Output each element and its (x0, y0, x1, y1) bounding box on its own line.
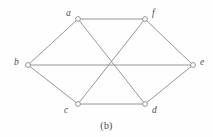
edge-layer (28, 19, 193, 104)
figure-caption: (b) (0, 120, 213, 131)
vertex-b (26, 63, 31, 68)
edge-b-c (28, 65, 78, 104)
vertex-label-c: c (64, 106, 68, 116)
vertex-label-b: b (14, 58, 19, 68)
vertex-label-d: d (152, 106, 157, 116)
vertex-label-e: e (200, 58, 204, 68)
edge-b-a (28, 19, 78, 65)
vertex-layer (26, 17, 196, 107)
graph-drawing (0, 0, 213, 137)
vertex-d (143, 102, 148, 107)
vertex-e (191, 63, 196, 68)
vertex-label-f: f (152, 9, 155, 19)
vertex-a (76, 17, 81, 22)
vertex-label-a: a (66, 9, 71, 19)
vertex-c (76, 102, 81, 107)
graph-figure: afbecd (b) (0, 0, 213, 137)
vertex-f (143, 17, 148, 22)
edge-f-e (145, 19, 193, 65)
edge-d-e (145, 65, 193, 104)
